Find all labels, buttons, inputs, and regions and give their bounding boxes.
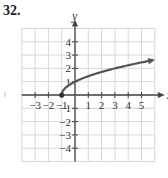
axes — [22, 20, 165, 162]
y-tick-label: −2 — [59, 116, 71, 128]
function-curve — [59, 58, 155, 98]
start-point-dot-icon — [59, 92, 64, 97]
x-tick-label: 2 — [99, 99, 105, 111]
curve-arrow-icon — [148, 58, 155, 64]
x-tick-label: 1 — [86, 99, 92, 111]
x-tick-label: −2 — [43, 99, 55, 111]
y-tick-label: 4 — [66, 36, 72, 48]
x-tick-label: −3 — [29, 99, 41, 111]
y-tick-label: −4 — [59, 142, 71, 154]
x-tick-label: 4 — [125, 99, 131, 111]
y-axis-label: y — [71, 9, 78, 23]
y-tick-label: 2 — [66, 62, 72, 74]
x-tick-label: 3 — [112, 99, 118, 111]
x-tick-label: 5 — [139, 99, 145, 111]
function-graph: xy−3−2−1123454321−1−2−3−4 — [0, 0, 168, 178]
y-tick-label: −1 — [59, 102, 71, 114]
y-tick-label: 3 — [66, 49, 72, 61]
y-tick-label: −3 — [59, 129, 71, 141]
x-axis-arrow-icon — [158, 92, 165, 98]
x-axis-label: x — [166, 88, 168, 102]
